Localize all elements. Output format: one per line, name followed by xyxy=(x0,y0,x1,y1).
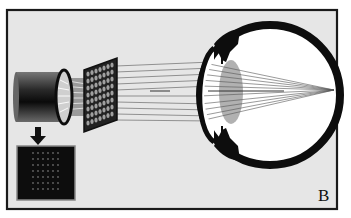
crystalline-lens xyxy=(219,60,243,124)
figure-panel xyxy=(0,0,351,218)
spot-pattern-inset xyxy=(17,146,75,200)
panel-label: B xyxy=(318,186,329,206)
camera-sensor xyxy=(13,70,86,124)
lenslet-array xyxy=(84,58,117,132)
